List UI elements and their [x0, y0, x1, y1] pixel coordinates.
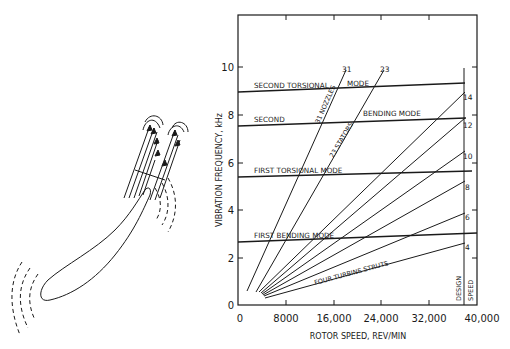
plot-area [238, 15, 477, 305]
order-line-23 [256, 70, 384, 292]
label-stators: 23 STATORS [328, 121, 355, 159]
y-tick-label: 2 [228, 253, 234, 264]
y-tick-label: 4 [228, 205, 234, 216]
label-design: DESIGN [455, 276, 463, 301]
label-speed: SPEED [467, 280, 475, 301]
label-second-torsional-mode: MODE [347, 79, 369, 88]
label-order-10: 10 [463, 152, 473, 161]
y-tick-label: 6 [228, 158, 234, 169]
label-order-14: 14 [463, 93, 473, 102]
figure: 0 8000 16,000 24,000 32,000 40,000 0 2 4… [0, 0, 510, 349]
label-order-31: 31 [342, 65, 352, 74]
x-tick-label: 24,000 [364, 313, 399, 324]
label-second-bending: SECOND [254, 115, 285, 124]
x-tick-label: 40,000 [465, 313, 500, 324]
label-order-23: 23 [380, 65, 390, 74]
label-struts: FOUR TURBINE STRUTS [313, 259, 389, 286]
label-order-6: 6 [465, 213, 470, 222]
label-second-bending-mode: BENDING MODE [363, 109, 421, 118]
label-nozzles: 31 NOZZLES [314, 84, 338, 125]
y-tick-label: 10 [221, 62, 234, 73]
x-tick-label: 0 [237, 313, 243, 324]
x-tick-label: 32,000 [412, 313, 447, 324]
x-axis-title: ROTOR SPEED, REV/MIN [310, 332, 406, 341]
turbine-blade-vibration-sketch [12, 116, 188, 335]
x-tick-label: 16,000 [317, 313, 352, 324]
label-second-torsional: SECOND TORSIONAL [254, 81, 329, 90]
y-tick-label: 0 [228, 300, 234, 311]
y-ticks [238, 67, 477, 258]
label-first-bending: FIRST BENDING MODE [254, 231, 335, 240]
vibration-arcs-upper-icon [155, 178, 176, 232]
x-tick-labels: 0 8000 16,000 24,000 32,000 40,000 [237, 313, 500, 324]
label-order-4: 4 [465, 243, 470, 252]
label-first-torsional: FIRST TORSIONAL MODE [254, 166, 343, 175]
vibration-arcs-lower-icon [12, 262, 38, 335]
y-axis-title: VIBRATION FREQUENCY, kHz [215, 113, 224, 227]
y-tick-label: 8 [228, 110, 234, 121]
order-line-31 [247, 70, 346, 291]
flow-arrows-icon [124, 116, 188, 200]
label-order-8: 8 [465, 183, 470, 192]
label-order-12: 12 [463, 121, 473, 130]
blade-outline-icon [41, 188, 151, 300]
x-tick-label: 8000 [273, 313, 298, 324]
